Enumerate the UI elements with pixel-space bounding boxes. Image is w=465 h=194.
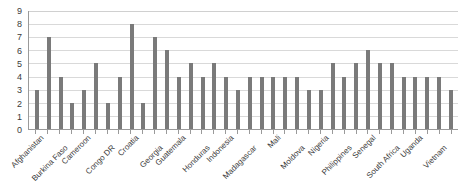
bar[interactable]	[283, 77, 287, 129]
bar-slot	[126, 11, 138, 129]
bar[interactable]	[130, 24, 134, 129]
bar[interactable]	[307, 90, 311, 129]
bar[interactable]	[331, 63, 335, 129]
y-axis-tick-label: 1	[17, 112, 22, 121]
bar[interactable]	[449, 90, 453, 129]
bar[interactable]	[47, 37, 51, 129]
bar-chart: 0123456789 AfghanistanBurkina FasoCamero…	[0, 0, 465, 194]
bar-series	[29, 11, 458, 129]
x-axis-category-label: Uganda	[400, 134, 425, 159]
bar-slot	[43, 11, 55, 129]
x-axis-category-label: Moldova	[279, 144, 306, 171]
bar-slot	[386, 11, 398, 129]
bar[interactable]	[271, 77, 275, 129]
bar-slot	[66, 11, 78, 129]
bar-slot	[197, 11, 209, 129]
y-axis-labels: 0123456789	[0, 11, 26, 130]
bar-slot	[232, 11, 244, 129]
bar-slot	[149, 11, 161, 129]
bar[interactable]	[236, 90, 240, 129]
bar-slot	[445, 11, 457, 129]
y-axis-tick-label: 4	[17, 73, 22, 82]
bar-slot	[185, 11, 197, 129]
bar-slot	[315, 11, 327, 129]
bar[interactable]	[224, 77, 228, 129]
y-axis-tick-label: 8	[17, 20, 22, 29]
y-axis-tick-label: 6	[17, 46, 22, 55]
bar[interactable]	[260, 77, 264, 129]
bar[interactable]	[295, 77, 299, 129]
bar[interactable]	[342, 77, 346, 129]
bar[interactable]	[94, 63, 98, 129]
plot-area	[28, 11, 458, 130]
bar-slot	[268, 11, 280, 129]
bar-slot	[78, 11, 90, 129]
bar-slot	[339, 11, 351, 129]
bar-slot	[327, 11, 339, 129]
bar-slot	[362, 11, 374, 129]
bar-slot	[220, 11, 232, 129]
bar-slot	[161, 11, 173, 129]
bar[interactable]	[425, 77, 429, 129]
bar-slot	[208, 11, 220, 129]
bar-slot	[433, 11, 445, 129]
bar-slot	[398, 11, 410, 129]
bar[interactable]	[378, 63, 382, 129]
x-axis-category-label: Mali	[267, 134, 283, 150]
x-axis-category-label: Senegal	[351, 134, 377, 160]
bar[interactable]	[413, 77, 417, 129]
y-axis-tick-label: 5	[17, 59, 22, 68]
y-axis-tick-label: 2	[17, 99, 22, 108]
x-axis-category-label: South Africa	[365, 144, 401, 180]
x-axis-category-label: Vietnam	[423, 144, 449, 170]
bar-slot	[410, 11, 422, 129]
bar[interactable]	[141, 103, 145, 129]
bar[interactable]	[366, 50, 370, 129]
bar-slot	[244, 11, 256, 129]
bar[interactable]	[153, 37, 157, 129]
x-axis-labels: AfghanistanBurkina FasoCameroonCongo DRC…	[28, 134, 458, 194]
x-axis-category-label: Congo DR	[85, 144, 117, 176]
bar[interactable]	[201, 77, 205, 129]
y-axis-tick-label: 3	[17, 86, 22, 95]
y-axis-tick-label: 7	[17, 33, 22, 42]
bar[interactable]	[189, 63, 193, 129]
x-axis-category-label: Afghanistan	[10, 134, 46, 170]
y-axis-tick-label: 0	[17, 126, 22, 135]
bar[interactable]	[390, 63, 394, 129]
x-axis-category-label: Croatia	[117, 134, 141, 158]
bar[interactable]	[354, 63, 358, 129]
bar[interactable]	[106, 103, 110, 129]
bar-slot	[31, 11, 43, 129]
bar-slot	[421, 11, 433, 129]
x-axis-category-label: Philippines	[321, 144, 354, 177]
bar[interactable]	[82, 90, 86, 129]
bar-slot	[90, 11, 102, 129]
bar-slot	[303, 11, 315, 129]
x-axis-category-label: Madagascar	[222, 144, 259, 181]
bar[interactable]	[118, 77, 122, 129]
bar[interactable]	[177, 77, 181, 129]
bar[interactable]	[319, 90, 323, 129]
bar[interactable]	[35, 90, 39, 129]
bar[interactable]	[248, 77, 252, 129]
bar-slot	[102, 11, 114, 129]
bar[interactable]	[70, 103, 74, 129]
bar-slot	[114, 11, 126, 129]
bar-slot	[374, 11, 386, 129]
bar-slot	[350, 11, 362, 129]
bar-slot	[173, 11, 185, 129]
y-axis-tick-label: 9	[17, 7, 22, 16]
bar[interactable]	[165, 50, 169, 129]
bar[interactable]	[437, 77, 441, 129]
bar-slot	[256, 11, 268, 129]
bar-slot	[279, 11, 291, 129]
bar[interactable]	[59, 77, 63, 129]
x-axis-category-label: Nigeria	[307, 134, 331, 158]
bar[interactable]	[402, 77, 406, 129]
bar[interactable]	[212, 63, 216, 129]
bar-slot	[137, 11, 149, 129]
bar-slot	[291, 11, 303, 129]
bar-slot	[55, 11, 67, 129]
